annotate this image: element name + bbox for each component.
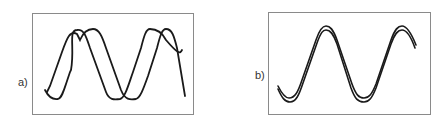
figure-canvas (0, 0, 446, 129)
panel-a-wave-1 (45, 29, 182, 99)
panel-b-wave-1 (278, 26, 416, 98)
panel-a-wave-2 (47, 29, 185, 99)
